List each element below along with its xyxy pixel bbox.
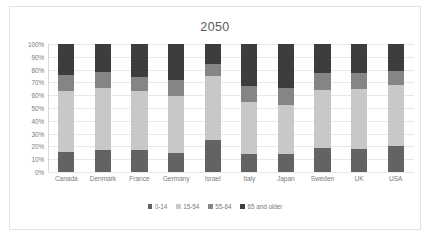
bar-segment[interactable] bbox=[168, 80, 184, 97]
legend-swatch-icon bbox=[240, 204, 245, 209]
plot-area bbox=[48, 44, 414, 172]
legend-item[interactable]: 55-64 bbox=[208, 203, 231, 210]
stacked-bar[interactable] bbox=[205, 44, 221, 172]
stacked-bar[interactable] bbox=[58, 44, 74, 172]
bar-segment[interactable] bbox=[58, 91, 74, 151]
legend-label: 55-64 bbox=[215, 203, 231, 210]
bar-segment[interactable] bbox=[131, 77, 147, 91]
stacked-bar[interactable] bbox=[95, 44, 111, 172]
bar-segment[interactable] bbox=[205, 76, 221, 140]
legend-item[interactable]: 0-14 bbox=[148, 203, 168, 210]
chart-title: 2050 bbox=[0, 20, 430, 34]
bar-segment[interactable] bbox=[351, 149, 367, 172]
bar-segment[interactable] bbox=[95, 88, 111, 151]
bar-segment[interactable] bbox=[95, 72, 111, 87]
y-axis-tick-label: 0% bbox=[35, 169, 44, 176]
bar-segment[interactable] bbox=[168, 96, 184, 152]
bar-segment[interactable] bbox=[314, 148, 330, 172]
bar-segment[interactable] bbox=[58, 75, 74, 92]
bar-segment[interactable] bbox=[314, 44, 330, 73]
bar-segment[interactable] bbox=[241, 44, 257, 86]
bar-segment[interactable] bbox=[168, 153, 184, 172]
stacked-bar[interactable] bbox=[278, 44, 294, 172]
legend-swatch-icon bbox=[148, 204, 153, 209]
bar-segment[interactable] bbox=[58, 152, 74, 172]
stacked-bar[interactable] bbox=[241, 44, 257, 172]
bar-group bbox=[48, 44, 414, 172]
x-axis-tick-label: USA bbox=[377, 175, 414, 182]
bar-segment[interactable] bbox=[351, 44, 367, 73]
bar-segment[interactable] bbox=[241, 154, 257, 172]
bar-segment[interactable] bbox=[388, 71, 404, 85]
chart-legend: 0-1415-5455-6465 and older bbox=[0, 203, 430, 210]
x-axis-tick-label: Sweden bbox=[304, 175, 341, 182]
y-axis-tick-label: 20% bbox=[32, 143, 45, 150]
legend-item[interactable]: 15-54 bbox=[176, 203, 199, 210]
bar-segment[interactable] bbox=[95, 150, 111, 172]
bar-segment[interactable] bbox=[205, 44, 221, 64]
y-axis-tick-label: 70% bbox=[32, 79, 45, 86]
bar-slot bbox=[304, 44, 341, 172]
y-axis-tick-label: 60% bbox=[32, 92, 45, 99]
x-axis-tick-label: Italy bbox=[231, 175, 268, 182]
y-axis-tick-label: 50% bbox=[32, 105, 45, 112]
bar-segment[interactable] bbox=[278, 44, 294, 88]
bar-segment[interactable] bbox=[205, 140, 221, 172]
x-axis-tick-label: Japan bbox=[268, 175, 305, 182]
bar-segment[interactable] bbox=[351, 89, 367, 149]
bar-segment[interactable] bbox=[388, 44, 404, 71]
bar-segment[interactable] bbox=[58, 44, 74, 75]
x-axis-tick-label: France bbox=[121, 175, 158, 182]
y-axis-tick-label: 30% bbox=[32, 130, 45, 137]
stacked-bar[interactable] bbox=[168, 44, 184, 172]
bar-segment[interactable] bbox=[95, 44, 111, 72]
bar-segment[interactable] bbox=[241, 86, 257, 101]
bar-slot bbox=[158, 44, 195, 172]
y-axis-tick-label: 80% bbox=[32, 66, 45, 73]
bar-segment[interactable] bbox=[388, 85, 404, 146]
legend-label: 0-14 bbox=[155, 203, 168, 210]
bar-slot bbox=[268, 44, 305, 172]
x-axis-tick-label: Denmark bbox=[85, 175, 122, 182]
stacked-bar[interactable] bbox=[131, 44, 147, 172]
bar-slot bbox=[231, 44, 268, 172]
bar-segment[interactable] bbox=[168, 44, 184, 80]
y-axis: 100%90%80%70%60%50%40%30%20%10%0% bbox=[18, 44, 44, 172]
bar-segment[interactable] bbox=[314, 73, 330, 90]
legend-item[interactable]: 65 and older bbox=[240, 203, 282, 210]
legend-swatch-icon bbox=[208, 204, 213, 209]
bar-segment[interactable] bbox=[131, 44, 147, 77]
y-axis-tick-label: 10% bbox=[32, 156, 45, 163]
bar-slot bbox=[194, 44, 231, 172]
bar-segment[interactable] bbox=[278, 154, 294, 172]
legend-label: 65 and older bbox=[247, 203, 282, 210]
stacked-bar[interactable] bbox=[388, 44, 404, 172]
bar-slot bbox=[341, 44, 378, 172]
bar-slot bbox=[377, 44, 414, 172]
x-axis-tick-label: Canada bbox=[48, 175, 85, 182]
bar-segment[interactable] bbox=[205, 64, 221, 76]
y-axis-tick-label: 90% bbox=[32, 53, 45, 60]
chart-container: 2050 100%90%80%70%60%50%40%30%20%10%0% C… bbox=[0, 0, 430, 238]
stacked-bar[interactable] bbox=[314, 44, 330, 172]
bar-segment[interactable] bbox=[241, 102, 257, 154]
bar-slot bbox=[85, 44, 122, 172]
bar-slot bbox=[121, 44, 158, 172]
bar-segment[interactable] bbox=[131, 91, 147, 150]
bar-segment[interactable] bbox=[388, 146, 404, 172]
bar-segment[interactable] bbox=[351, 73, 367, 88]
bar-segment[interactable] bbox=[278, 88, 294, 106]
x-axis-tick-label: Israel bbox=[194, 175, 231, 182]
stacked-bar[interactable] bbox=[351, 44, 367, 172]
y-axis-tick-label: 40% bbox=[32, 117, 45, 124]
x-axis: CanadaDenmarkFranceGermanyIsraelItalyJap… bbox=[48, 175, 414, 182]
y-axis-tick-label: 100% bbox=[28, 41, 44, 48]
bar-slot bbox=[48, 44, 85, 172]
x-axis-tick-label: UK bbox=[341, 175, 378, 182]
bar-segment[interactable] bbox=[131, 150, 147, 172]
legend-swatch-icon bbox=[176, 204, 181, 209]
bar-segment[interactable] bbox=[314, 90, 330, 148]
x-axis-tick-label: Germany bbox=[158, 175, 195, 182]
bar-segment[interactable] bbox=[278, 105, 294, 154]
gridline bbox=[48, 172, 414, 173]
